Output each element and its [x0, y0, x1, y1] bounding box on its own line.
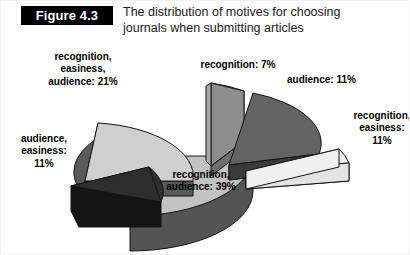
pie-chart: recognition: 7% audience: 11% recognitio… — [1, 41, 410, 255]
pie-label-recognition: recognition: 7% — [179, 59, 297, 71]
figure-number-badge: Figure 4.3 — [21, 6, 113, 25]
pie-label-audience-easiness: audience, easiness: 11% — [5, 133, 83, 170]
figure-title-line-1: The distribution of motives for choosing — [123, 5, 391, 21]
pie-label-recognition-easiness: recognition, easiness: 11% — [353, 110, 410, 147]
figure-container: Figure 4.3 The distribution of motives f… — [0, 0, 410, 255]
pie-label-recognition-audience: recognition, audience: 39% — [127, 169, 275, 194]
pie-label-audience: audience: 11% — [287, 74, 397, 86]
figure-title: The distribution of motives for choosing… — [123, 5, 391, 36]
figure-header: Figure 4.3 The distribution of motives f… — [1, 1, 410, 45]
pie-label-recognition-easiness-audience: recognition, easiness, audience: 21% — [27, 51, 139, 88]
figure-title-line-2: journals when submitting articles — [123, 21, 391, 37]
